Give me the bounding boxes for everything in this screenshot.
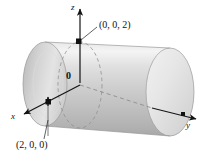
z-axis-label: z [71, 3, 75, 12]
cylinder-left-cap [23, 42, 67, 126]
point-label-0-0-2: (0, 0, 2) [99, 20, 131, 30]
point-marker-2-0-0 [46, 99, 52, 105]
y-axis-label: y [186, 121, 190, 130]
point-marker-0-0-2 [76, 39, 82, 45]
cylinder-solid [23, 42, 194, 136]
point-label-2-0-0: (2, 0, 0) [16, 140, 48, 150]
x-axis-label: x [11, 112, 15, 121]
cylinder-coordinate-diagram: z x y 0 (0, 0, 2) (2, 0, 0) [0, 0, 209, 165]
origin-label: 0 [66, 71, 71, 81]
leader-0-0-2 [81, 27, 97, 40]
point-marker-y-axis [181, 112, 185, 116]
